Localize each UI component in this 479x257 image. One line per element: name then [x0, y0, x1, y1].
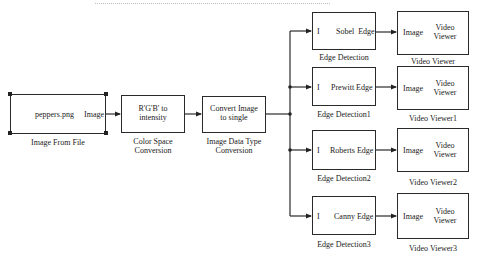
port-label-in: I — [317, 27, 320, 36]
selection-handle[interactable] — [8, 131, 12, 135]
port-label-out: Sobel Edge — [336, 27, 375, 36]
block-content-line1: R'G'B' to — [121, 104, 185, 113]
port-label-in: Image — [403, 28, 423, 37]
port-label-in: Image — [403, 212, 423, 221]
port-label-in: Image — [403, 146, 423, 155]
port-label-in: I — [317, 83, 320, 92]
port-label-in: Image — [403, 84, 423, 93]
block-content-line2: intensity — [121, 113, 185, 122]
port-label-in: I — [317, 146, 320, 155]
port-label-out: Prewitt Edge — [331, 83, 373, 92]
viewer-title-line1: Video — [426, 79, 464, 88]
selection-handle[interactable] — [8, 92, 12, 96]
block-caption-line1: Color Space — [121, 137, 185, 146]
block-caption: Edge Detection2 — [306, 174, 382, 183]
block-caption-line2: Conversion — [121, 146, 185, 155]
port-label-in: I — [317, 212, 320, 221]
block-content: peppers.png — [35, 110, 74, 119]
viewer-title-line1: Video — [426, 23, 464, 32]
block-caption: Edge Detection — [306, 53, 382, 62]
viewer-title-line2: Viewer — [426, 32, 464, 41]
block-content-line1: Convert Image — [202, 104, 266, 113]
block-caption: Video Viewer3 — [393, 244, 473, 253]
viewer-title-line2: Viewer — [426, 150, 464, 159]
selection-handle[interactable] — [104, 131, 108, 135]
viewer-title-line1: Video — [426, 141, 464, 150]
block-content-line2: to single — [202, 113, 266, 122]
block-caption: Edge Detection3 — [306, 240, 382, 249]
block-caption-line2: Conversion — [196, 146, 272, 155]
viewer-title-line2: Viewer — [426, 216, 464, 225]
block-caption-line1: Image Data Type — [196, 137, 272, 146]
port-label-out: Image — [84, 110, 104, 119]
viewer-title-line2: Viewer — [426, 88, 464, 97]
port-label-out: Roberts Edge — [330, 146, 373, 155]
block-caption: Edge Detection1 — [306, 110, 382, 119]
block-caption: Image From File — [10, 138, 106, 147]
block-caption: Video Viewer1 — [393, 114, 473, 123]
port-label-out: Canny Edge — [334, 212, 373, 221]
selection-handle[interactable] — [104, 92, 108, 96]
block-caption: Video Viewer — [393, 57, 473, 66]
viewer-title-line1: Video — [426, 207, 464, 216]
block-caption: Video Viewer2 — [393, 178, 473, 187]
